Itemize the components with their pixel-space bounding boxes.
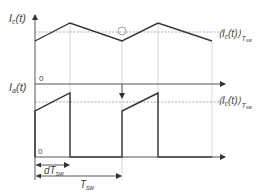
ic-average-label-top: ⟨Ic(t)⟩Tsw [218,28,252,43]
switch-current-waveform [35,93,212,157]
ic-axis-label: Ic(t) [9,12,26,25]
waveform-diagram: Ic(t) ⟨Ic(t)⟩Tsw 0 Ia(t) ⟨Ic(t)⟩Tsw 0 dT… [0,0,269,194]
highlight-circle [118,27,126,35]
zero-label-top: 0 [39,74,44,83]
period-label: Tsw [80,179,95,191]
ic-average-label-bottom: ⟨Ic(t)⟩Tsw [218,95,252,110]
duty-interval-label: dTsw [44,165,65,177]
zero-label-bottom: 0 [38,147,43,156]
ia-axis-label: Ia(t) [9,81,27,94]
